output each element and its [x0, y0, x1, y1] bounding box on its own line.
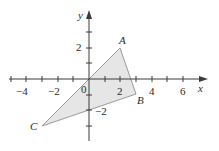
- point-label-c: C: [30, 120, 38, 132]
- point-label-b: B: [137, 94, 144, 106]
- y-axis-arrow-icon: [86, 10, 92, 19]
- x-tick-label-2: 2: [117, 85, 123, 97]
- x-tick-label-neg2: −2: [48, 85, 60, 97]
- x-tick-label-4: 4: [149, 85, 155, 97]
- y-tick-label-neg2: −2: [95, 105, 107, 117]
- point-label-a: A: [118, 34, 126, 46]
- x-tick-label-6: 6: [180, 85, 186, 97]
- y-axis-label: y: [77, 9, 83, 21]
- x-tick-label-neg4: −4: [16, 85, 28, 97]
- x-axis-label: x: [197, 82, 203, 94]
- origin-label: 0: [81, 83, 87, 95]
- y-tick-label-2: 2: [76, 41, 82, 53]
- coordinate-plane: −4 −2 0 2 4 6 2 −2 x y A B C: [0, 0, 219, 151]
